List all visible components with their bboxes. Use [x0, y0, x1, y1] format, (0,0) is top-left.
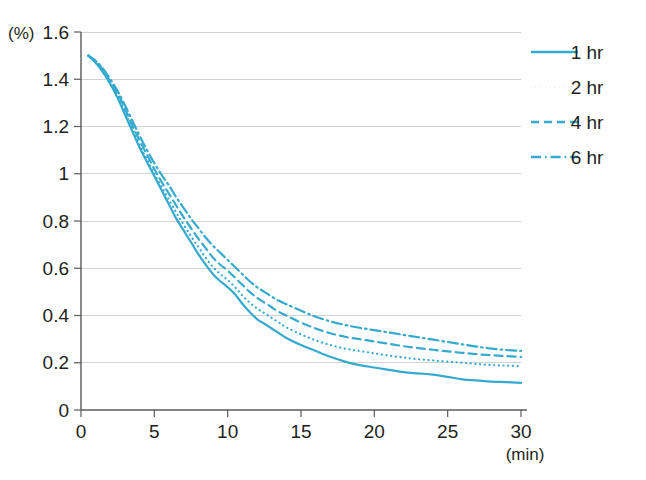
y-tick-label-8: 1.6 — [43, 22, 69, 43]
y-tick-label-2: 0.4 — [43, 305, 70, 326]
x-axis-unit-label: (min) — [506, 445, 545, 464]
legend-label-1-hr: 1 hr — [571, 42, 604, 63]
y-axis-unit-label: (%) — [8, 24, 34, 43]
legend-label-2-hr: 2 hr — [571, 77, 604, 98]
y-tick-label-5: 1 — [58, 163, 69, 184]
y-tick-label-6: 1.2 — [43, 116, 69, 137]
x-tick-label-5: 25 — [437, 421, 458, 442]
x-tick-label-3: 15 — [290, 421, 311, 442]
y-tick-label-0: 0 — [58, 400, 69, 421]
x-tick-label-2: 10 — [217, 421, 238, 442]
legend-label-4-hr: 4 hr — [571, 112, 604, 133]
y-tick-label-4: 0.8 — [43, 211, 69, 232]
x-tick-label-6: 30 — [510, 421, 531, 442]
x-tick-label-4: 20 — [364, 421, 385, 442]
line-chart: 00.20.40.60.811.21.41.6 051015202530 (%)… — [0, 0, 646, 480]
chart-background — [0, 0, 646, 480]
chart-container: 00.20.40.60.811.21.41.6 051015202530 (%)… — [0, 0, 646, 480]
y-tick-label-3: 0.6 — [43, 258, 69, 279]
legend-label-6-hr: 6 hr — [571, 147, 604, 168]
x-tick-label-0: 0 — [76, 421, 87, 442]
y-tick-label-1: 0.2 — [43, 352, 69, 373]
x-tick-label-1: 5 — [149, 421, 160, 442]
y-tick-label-7: 1.4 — [43, 69, 70, 90]
